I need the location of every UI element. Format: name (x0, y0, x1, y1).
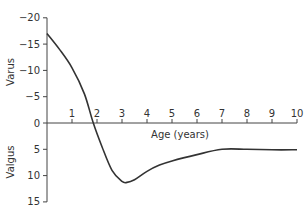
x-tick-label: 3 (119, 108, 125, 119)
x-tick-label: 7 (219, 108, 225, 119)
x-tick-label: 2 (94, 108, 100, 119)
y-tick-label: 15 (27, 196, 40, 207)
y-axis-title-valgus: Valgus (5, 146, 16, 179)
y-tick-label: −15 (19, 39, 40, 50)
y-axis-title-varus: Varus (5, 58, 16, 86)
x-tick-label: 6 (194, 108, 200, 119)
y-tick-label: −20 (19, 12, 40, 23)
x-axis: 12345678910 (47, 108, 303, 123)
y-tick-label: 5 (34, 144, 40, 155)
y-tick-label: −5 (25, 91, 40, 102)
x-tick-label: 8 (244, 108, 250, 119)
x-tick-label: 4 (144, 108, 150, 119)
y-axis: −20−15−10−5051015 (19, 12, 47, 207)
y-tick-label: −10 (19, 65, 40, 76)
x-tick-label: 1 (69, 108, 75, 119)
x-tick-label: 10 (291, 108, 304, 119)
chart: −20−15−10−5051015 12345678910 Age (years… (0, 0, 307, 215)
x-axis-title: Age (years) (151, 129, 209, 140)
x-tick-label: 5 (169, 108, 175, 119)
y-tick-label: 10 (27, 170, 40, 181)
x-tick-label: 9 (269, 108, 275, 119)
y-tick-label: 0 (34, 118, 40, 129)
